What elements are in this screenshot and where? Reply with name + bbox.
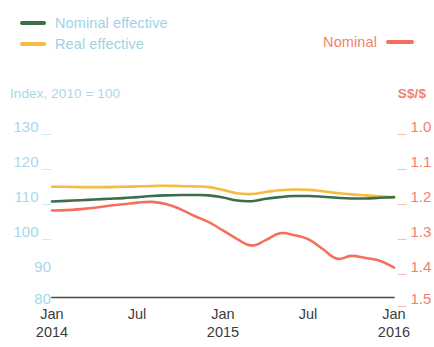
plot-area: 130 _ 120 _ 110 _ 100 _ 90 80 _ 1.0 _ 1.… — [0, 0, 434, 347]
x-axis-tick-jan-2015: Jan 2015 — [207, 306, 239, 341]
series-line-nominal — [52, 202, 394, 268]
series-line-real-effective — [52, 186, 394, 198]
series-canvas — [0, 0, 434, 347]
x-axis-tick-jul-2014: Jul — [128, 306, 147, 324]
x-axis-tick-jan-2014: Jan 2014 — [36, 306, 68, 341]
x-axis-tick-jul-2015: Jul — [299, 306, 318, 324]
series-line-nominal-effective — [52, 195, 394, 202]
x-axis-tick-jan-2016: Jan 2016 — [378, 306, 410, 341]
chart-container: Nominal effective Real effective Nominal… — [0, 0, 434, 347]
